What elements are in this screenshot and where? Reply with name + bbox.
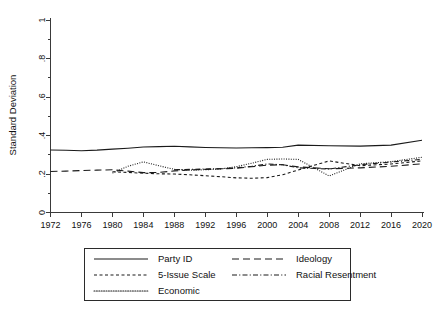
series-line-ideology (51, 164, 423, 173)
legend-label-ideology: Ideology (296, 253, 332, 264)
y-tick-label: 1 (37, 17, 47, 22)
x-tick-label: 1980 (102, 220, 122, 230)
y-tick-label: .2 (37, 170, 47, 178)
x-tick-label: 1984 (133, 220, 153, 230)
legend-label-racial-resentment: Racial Resentment (296, 269, 377, 280)
x-axis-ticks: 1972197619801984198819921996200020042008… (40, 213, 432, 231)
x-tick-label: 2020 (412, 220, 432, 230)
x-tick-label: 2004 (288, 220, 308, 230)
chart-figure: Standard Deviation 0.2.4.6.81 1972197619… (0, 0, 436, 309)
line-chart: Standard Deviation 0.2.4.6.81 1972197619… (0, 0, 436, 309)
x-tick-label: 1996 (226, 220, 246, 230)
legend-label-party-id: Party ID (158, 253, 192, 264)
y-tick-label: .6 (37, 93, 47, 101)
legend-entries: Party IDIdeology5-Issue ScaleRacial Rese… (94, 253, 377, 296)
x-tick-label: 2012 (350, 220, 370, 230)
data-series-group (51, 140, 423, 178)
x-tick-label: 1972 (40, 220, 60, 230)
y-axis-ticks: 0.2.4.6.81 (37, 17, 50, 215)
x-tick-label: 2000 (257, 220, 277, 230)
x-tick-label: 1992 (195, 220, 215, 230)
x-tick-label: 2016 (381, 220, 401, 230)
y-tick-label: .8 (37, 55, 47, 63)
x-tick-label: 1988 (164, 220, 184, 230)
y-axis-title: Standard Deviation (7, 75, 18, 156)
y-tick-label: .4 (37, 132, 47, 140)
legend-label-5-issue-scale: 5-Issue Scale (158, 269, 216, 280)
legend-label-economic: Economic (158, 285, 200, 296)
series-line-party-id (51, 140, 423, 150)
x-tick-label: 2008 (319, 220, 339, 230)
y-tick-label: 0 (37, 210, 47, 215)
x-tick-label: 1976 (71, 220, 91, 230)
